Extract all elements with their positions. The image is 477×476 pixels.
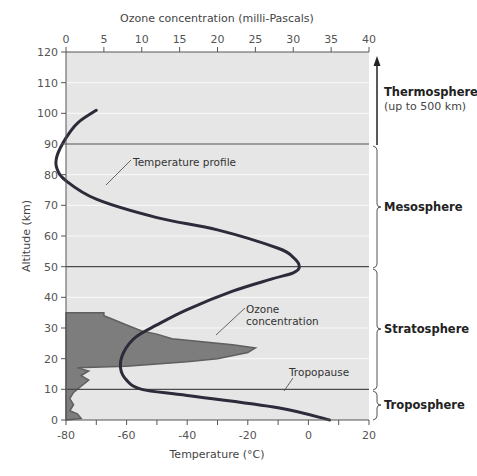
stratosphere-label: Stratosphere: [384, 322, 469, 336]
ozone-tick-label: 20: [211, 33, 225, 46]
mesosphere-brace: [373, 146, 381, 268]
temperature-tick-label: -80: [57, 429, 75, 442]
mesosphere-label: Mesosphere: [384, 200, 463, 214]
y-tick-label: 30: [44, 322, 58, 335]
ozone-label-line2: concentration: [246, 315, 319, 327]
stratosphere-brace: [373, 269, 381, 390]
temperature-tick-label: -60: [118, 429, 136, 442]
y-tick-label: 10: [44, 383, 58, 396]
troposphere-label: Troposphere: [384, 398, 465, 412]
temperature-tick-label: -40: [178, 429, 196, 442]
ozone-tick-label: 15: [173, 33, 187, 46]
arrow-up-icon: [374, 56, 381, 66]
temperature-tick-label: 0: [305, 429, 312, 442]
temperature-profile-label: Temperature profile: [132, 156, 236, 168]
ozone-tick-label: 10: [135, 33, 149, 46]
y-tick-label: 70: [44, 199, 58, 212]
temperature-axis-title: Temperature (°C): [169, 448, 265, 461]
ozone-tick-label: 30: [286, 33, 300, 46]
ozone-tick-label: 40: [362, 33, 376, 46]
ozone-tick-label: 0: [63, 33, 70, 46]
thermosphere-note: (up to 500 km): [384, 100, 466, 113]
altitude-axis-title: Altitude (km): [20, 200, 33, 272]
y-tick-label: 80: [44, 169, 58, 182]
ozone-tick-label: 5: [100, 33, 107, 46]
temperature-tick-label: -20: [239, 429, 257, 442]
y-tick-label: 90: [44, 138, 58, 151]
ozone-tick-label: 25: [248, 33, 262, 46]
atmosphere-chart: 0102030405060708090100110120-80-60-40-20…: [0, 0, 477, 476]
temperature-tick-label: 20: [362, 429, 376, 442]
y-tick-label: 40: [44, 291, 58, 304]
y-tick-label: 20: [44, 353, 58, 366]
y-tick-label: 110: [37, 77, 58, 90]
tropopause-label: Tropopause: [288, 366, 349, 378]
ozone-tick-label: 35: [324, 33, 338, 46]
y-tick-label: 100: [37, 107, 58, 120]
y-tick-label: 50: [44, 261, 58, 274]
y-tick-label: 60: [44, 230, 58, 243]
thermosphere-label: Thermosphere: [384, 85, 477, 99]
ozone-axis-title: Ozone concentration (milli-Pascals): [120, 12, 314, 25]
ozone-label-line1: Ozone: [246, 303, 279, 315]
y-tick-label: 120: [37, 46, 58, 59]
y-tick-label: 0: [51, 414, 58, 427]
troposphere-brace: [373, 391, 381, 420]
